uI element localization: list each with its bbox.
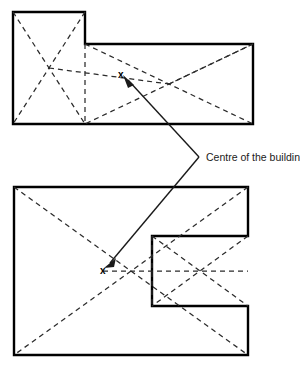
lower-centre-x-marker: x (100, 265, 106, 276)
upper-plan-group: x (13, 12, 253, 124)
diagram-canvas: x x Centre of the building (0, 0, 300, 368)
lower-plan-group: x (14, 187, 248, 355)
building-centre-diagram: x x Centre of the building (0, 0, 300, 368)
centre-of-building-label: Centre of the building (206, 151, 300, 163)
upper-centre-x-marker: x (118, 69, 124, 80)
